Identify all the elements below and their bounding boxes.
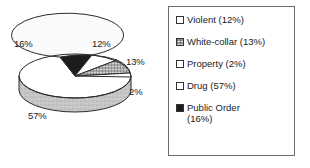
legend-item-violent: Violent (12%) xyxy=(176,14,290,25)
legend-item-drug: Drug (57%) xyxy=(176,80,290,91)
legend-swatch-icon xyxy=(176,16,184,24)
legend-item-white-collar: White-collar (13%) xyxy=(176,36,290,47)
legend-swatch-icon xyxy=(176,104,184,112)
pie-label-drug: 57% xyxy=(28,110,47,121)
legend-label: Drug (57%) xyxy=(187,80,236,91)
legend-swatch-icon xyxy=(176,82,184,90)
pie-side-wall xyxy=(19,76,131,112)
chart-legend: Violent (12%) White-collar (13%) Propert… xyxy=(168,6,295,156)
legend-swatch-icon xyxy=(176,60,184,68)
legend-item-property: Property (2%) xyxy=(176,58,290,69)
pie-chart-plot-area: 16% 12% 13% 2% 57% xyxy=(0,0,160,168)
legend-item-public-order: Public Order (16%) xyxy=(176,102,290,124)
pie-label-public-order: 16% xyxy=(14,38,33,49)
pie-label-violent: 12% xyxy=(92,38,111,49)
pie-chart-graphic xyxy=(0,0,160,168)
legend-label: Property (2%) xyxy=(187,58,246,69)
legend-swatch-icon xyxy=(176,38,184,46)
pie-label-white-collar: 13% xyxy=(126,56,145,67)
legend-label: White-collar (13%) xyxy=(187,36,265,47)
pie-top-face xyxy=(12,13,131,98)
legend-label: Violent (12%) xyxy=(187,14,244,25)
pie-chart-figure: 16% 12% 13% 2% 57% Violent (12%) White-c… xyxy=(0,0,310,168)
pie-label-property: 2% xyxy=(129,86,143,97)
legend-label: Public Order (16%) xyxy=(187,102,240,124)
